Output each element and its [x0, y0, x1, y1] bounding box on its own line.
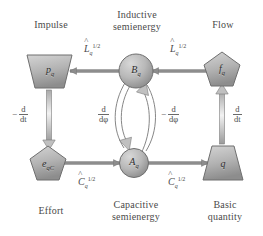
edge-label-left-derivative: − d dt	[12, 105, 28, 124]
hat-accent-icon: ˄	[170, 37, 175, 45]
corner-label-basic-quantity-line2: quantity	[194, 212, 256, 223]
corner-label-effort: Effort	[16, 206, 86, 217]
node-label-impulse-sub: q	[51, 70, 54, 77]
edge-label-center-right-derivative: − d dφ	[161, 105, 179, 124]
edge-impulse-to-effort	[43, 90, 55, 150]
node-label-impulse: pq	[34, 64, 66, 77]
hat-accent-icon: ˄	[84, 37, 89, 45]
hat-accent-icon: ˄	[168, 170, 173, 178]
edge-label-right-derivative: d dt	[231, 105, 242, 124]
node-label-quantity: q	[207, 158, 239, 171]
node-label-inductive: Bq	[120, 64, 152, 77]
node-label-capacitive-sub: q	[135, 162, 138, 169]
minus-sign: −	[12, 109, 18, 119]
node-label-effort-sub: qC	[46, 164, 54, 171]
node-label-quantity-base: q	[221, 158, 226, 169]
corner-label-capacitive-semienergy-line1: Capacitive	[96, 200, 176, 211]
node-label-flow: fq	[206, 63, 238, 76]
corner-label-inductive-semienergy-line2: semienergy	[98, 22, 176, 33]
edge-capacitive-to-inductive	[137, 82, 156, 154]
hat-accent-icon: ˄	[78, 170, 83, 178]
edge-label-inductance-left: ˄ Lq1/2	[84, 43, 100, 56]
corner-label-flow: Flow	[192, 20, 254, 31]
node-label-inductive-sub: q	[137, 70, 140, 77]
minus-sign: −	[161, 109, 167, 119]
corner-label-basic-quantity-line1: Basic	[194, 200, 256, 211]
corner-label-capacitive-semienergy-line2: semienergy	[96, 212, 176, 223]
node-label-effort: eqC	[32, 158, 64, 171]
edge-label-capacitance-left: ˄ Cq1/2	[78, 176, 95, 189]
corner-label-impulse: Impulse	[16, 20, 86, 31]
corner-label-inductive-semienergy-line1: Inductive	[98, 10, 176, 21]
edge-quantity-to-flow	[216, 84, 228, 144]
edge-label-center-left-derivative: d dφ	[96, 105, 109, 124]
node-label-capacitive: Aq	[118, 156, 150, 169]
edge-inductive-to-capacitive	[115, 82, 131, 151]
edge-label-capacitance-right: ˄ Cq1/2	[168, 176, 185, 189]
edge-label-inductance-right: ˄ Lq1/2	[170, 43, 186, 56]
node-label-flow-sub: q	[222, 69, 225, 76]
